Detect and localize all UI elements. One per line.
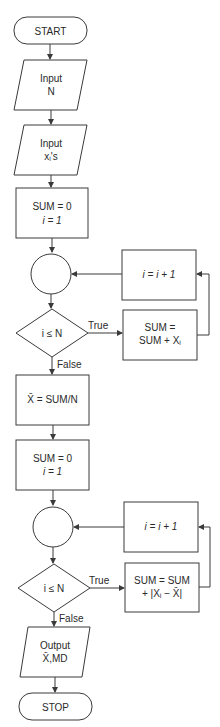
stop-terminal: STOP	[19, 693, 92, 720]
flowchart: START Input N Input xᵢ's SUM = 0 i = 1 i…	[0, 0, 220, 727]
svg-text:X̄ = SUM/N: X̄ = SUM/N	[27, 393, 77, 405]
svg-text:i ≤ N: i ≤ N	[42, 328, 63, 339]
true-label-1: True	[88, 320, 109, 331]
connector-circle-2	[33, 507, 73, 547]
init-box-2: SUM = 0 i = 1	[16, 440, 89, 490]
svg-text:i = i + 1: i = i + 1	[145, 521, 178, 532]
svg-text:START: START	[35, 26, 67, 37]
input-n-node: Input N	[14, 60, 87, 110]
false-label-2: False	[59, 613, 84, 624]
svg-text:i = 1: i = 1	[43, 466, 62, 477]
svg-text:i = i + 1: i = i + 1	[143, 269, 176, 280]
svg-text:Input: Input	[40, 73, 62, 84]
output-node: Output X̄,MD	[20, 627, 90, 677]
decision-diamond-2: i ≤ N	[18, 564, 90, 612]
init-box-1: SUM = 0 i = 1	[16, 188, 88, 238]
false-label-1: False	[57, 359, 82, 370]
increment-box-1: i = i + 1	[122, 250, 196, 300]
start-terminal: START	[14, 17, 87, 44]
connector-circle-1	[31, 254, 71, 294]
svg-text:SUM + Xᵢ: SUM + Xᵢ	[139, 335, 181, 346]
svg-text:+ |Xᵢ − X̄|: + |Xᵢ − X̄|	[142, 587, 182, 599]
true-label-2: True	[89, 575, 110, 586]
svg-text:Input: Input	[40, 138, 62, 149]
mean-box: X̄ = SUM/N	[16, 375, 89, 425]
svg-text:i = 1: i = 1	[42, 215, 61, 226]
svg-text:i ≤ N: i ≤ N	[44, 583, 65, 594]
accumulate-box-1: SUM = SUM + Xᵢ	[123, 310, 197, 360]
decision-diamond-1: i ≤ N	[16, 309, 88, 357]
svg-text:SUM = 0: SUM = 0	[33, 453, 73, 464]
svg-text:SUM = SUM: SUM = SUM	[134, 575, 190, 586]
svg-text:STOP: STOP	[42, 702, 69, 713]
svg-text:SUM = 0: SUM = 0	[32, 201, 72, 212]
svg-text:xᵢ's: xᵢ's	[44, 151, 57, 162]
svg-text:Output: Output	[40, 640, 70, 651]
svg-text:N: N	[47, 86, 54, 97]
svg-text:X̄,MD: X̄,MD	[43, 652, 68, 664]
accumulate-box-2: SUM = SUM + |Xᵢ − X̄|	[125, 563, 199, 612]
increment-box-2: i = i + 1	[124, 502, 198, 552]
svg-text:SUM =: SUM =	[145, 322, 176, 333]
input-x-node: Input xᵢ's	[14, 125, 87, 175]
